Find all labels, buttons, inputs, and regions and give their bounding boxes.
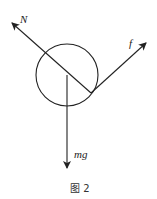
friction-force-arrow [91, 43, 146, 93]
gravity-force-label: mg [74, 148, 88, 160]
friction-force-label: f [129, 37, 134, 49]
free-body-diagram: N f mg 图 2 [0, 0, 157, 199]
normal-force-label: N [19, 13, 28, 25]
figure-caption: 图 2 [70, 183, 90, 194]
normal-force-arrow [12, 23, 91, 93]
